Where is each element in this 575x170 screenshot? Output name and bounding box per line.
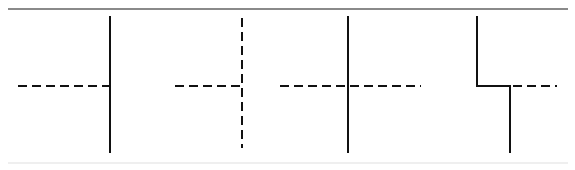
figure-3-solid-vertical-crossed-dashed bbox=[280, 16, 421, 153]
figure-1-solid-vertical-dashed-tee bbox=[18, 16, 111, 153]
figure-sheet bbox=[0, 0, 575, 170]
line-junction-diagram bbox=[0, 0, 575, 170]
figure-4-solid-jog-dashed-branch bbox=[477, 16, 557, 153]
figure-2-dashed-vertical-dashed-tee bbox=[175, 18, 243, 148]
figure-4-jog-solid-polyline bbox=[477, 16, 510, 153]
